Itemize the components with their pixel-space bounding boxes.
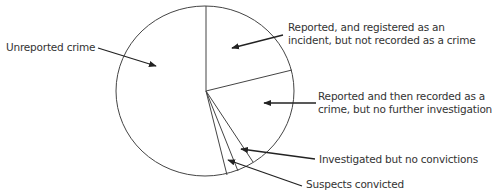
label-no-investigation-line1: Reported and then recorded as a (318, 90, 492, 103)
label-not-recorded-line1: Reported, and registered as an (288, 21, 475, 34)
label-not-recorded-line2: incident, but not recorded as a crime (288, 34, 475, 47)
label-no-investigation: Reported and then recorded as a crime, b… (318, 90, 492, 116)
pie-outline (116, 6, 294, 176)
label-no-convictions: Investigated but no convictions (319, 153, 478, 166)
label-not-recorded: Reported, and registered as an incident,… (288, 21, 475, 47)
label-suspects-convicted: Suspects convicted (306, 178, 404, 191)
arrow-convicted (228, 160, 302, 186)
label-no-investigation-line2: crime, but no further investigation (318, 103, 492, 116)
label-unreported-crime: Unreported crime (6, 41, 95, 54)
